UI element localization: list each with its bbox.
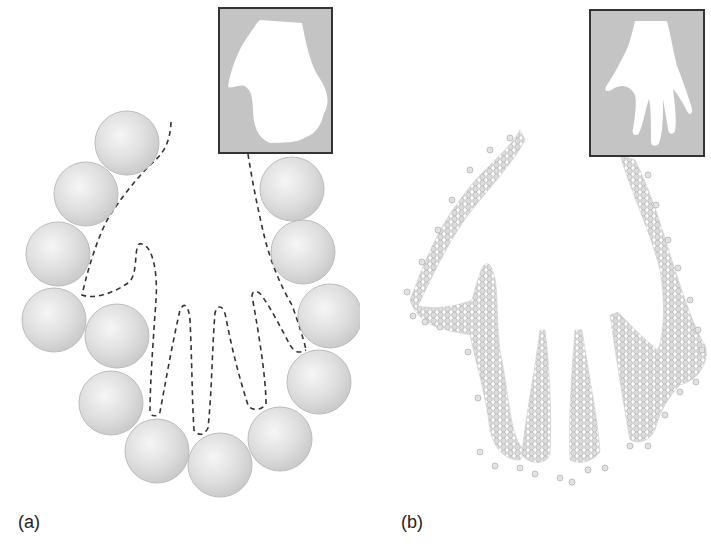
inset-detailed-hand [589, 9, 705, 157]
inset-coarse-hand [218, 7, 333, 154]
panel-b: (b) [360, 0, 711, 550]
panel-a: (a) [0, 0, 360, 550]
hand-silhouette-detailed-icon [591, 11, 703, 155]
panel-label-b: (b) [401, 512, 423, 533]
panel-label-a: (a) [18, 512, 40, 533]
hand-silhouette-coarse-icon [220, 9, 331, 152]
